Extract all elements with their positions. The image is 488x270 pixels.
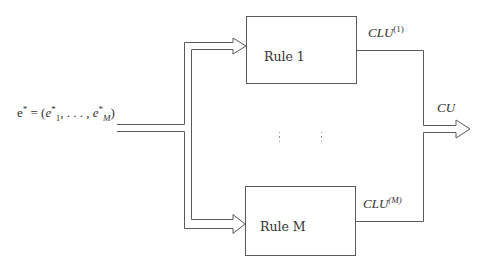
clu-1-superscript: (1) — [393, 24, 404, 34]
combined-output-label: CU — [437, 101, 455, 114]
input-vector-label: e* = (e*1, . . . , e*M) — [17, 106, 115, 119]
vertical-ellipsis-left — [279, 132, 281, 145]
ruleM-label: Rule M — [260, 221, 306, 234]
rule1-label: Rule 1 — [264, 51, 305, 64]
clu-m-superscript: (M) — [388, 195, 402, 205]
ruleM-output-label: CLU(M) — [363, 197, 402, 210]
clu-m-base: CLU — [363, 196, 388, 211]
rule1-output-label: CLU(1) — [368, 26, 404, 39]
clu-1-base: CLU — [368, 25, 393, 40]
close-paren: ) — [111, 105, 115, 120]
rule1-input-arrowhead — [233, 38, 246, 54]
input-branch-lines — [117, 43, 233, 229]
output-arrowhead — [456, 120, 470, 138]
ruleM-input-arrowhead — [233, 215, 245, 234]
ellipsis: , . . . , — [60, 105, 93, 120]
rule-combination-diagram — [0, 0, 488, 270]
vertical-ellipsis-right — [321, 132, 323, 145]
equals-sign: = ( — [27, 105, 45, 120]
last-subscript: M — [103, 113, 111, 123]
